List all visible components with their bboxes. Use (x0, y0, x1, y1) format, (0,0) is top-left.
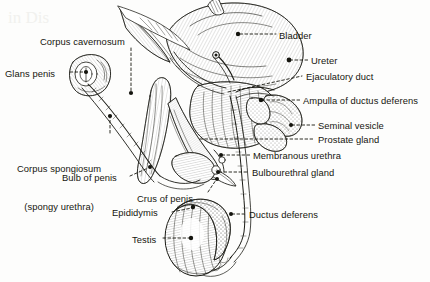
leader-dot-crus (215, 177, 219, 181)
label-corpus-spongiosum-line2: (spongy urethra) (17, 201, 101, 214)
label-ejaculatory-duct: Ejaculatory duct (306, 71, 374, 82)
label-ductus-deferens: Ductus deferens (249, 209, 318, 220)
leader-dot-corpus-spongiosum (108, 114, 112, 118)
leader-dot-epididymis (191, 205, 195, 209)
label-ureter: Ureter (311, 55, 337, 66)
label-seminal-vesicle: Seminal vesicle (318, 120, 384, 131)
label-testis: Testis (132, 234, 156, 245)
label-bladder: Bladder (279, 30, 312, 41)
leader-dot-membranous-urethra (219, 153, 223, 157)
label-ampulla-of-ductus-deferens: Ampulla of ductus deferens (303, 95, 418, 106)
label-corpus-cavernosum: Corpus cavernosum (40, 36, 125, 47)
label-prostate-gland: Prostate gland (318, 134, 379, 145)
label-bulbourethral-gland: Bulbourethral gland (252, 167, 334, 178)
label-crus-of-penis: Crus of penis (137, 193, 193, 204)
leader-dot-ampulla (259, 98, 264, 103)
label-membranous-urethra: Membranous urethra (253, 150, 341, 161)
anatomy-figure: in Dis (0, 0, 430, 282)
leader-dot-bladder (236, 32, 240, 36)
leader-dot-bulb (148, 165, 152, 169)
label-corpus-spongiosum: Corpus spongiosum (spongy urethra) (17, 138, 101, 238)
leader-dot-seminal-vesicle (289, 123, 293, 127)
leader-dot-ductus-deferens (229, 212, 233, 216)
leader-crus-of-penis (208, 180, 216, 192)
label-epididymis: Epididymis (112, 207, 158, 218)
leader-dot-testis (189, 236, 193, 240)
label-glans-penis: Glans penis (5, 68, 55, 79)
label-bulb-of-penis: Bulb of penis (62, 172, 117, 183)
leader-dot-ureter (287, 58, 292, 63)
leader-dot-glans (84, 70, 88, 74)
leader-dot-corpus-cavernosum (129, 91, 133, 95)
leader-dot-bulbourethral (216, 170, 220, 174)
